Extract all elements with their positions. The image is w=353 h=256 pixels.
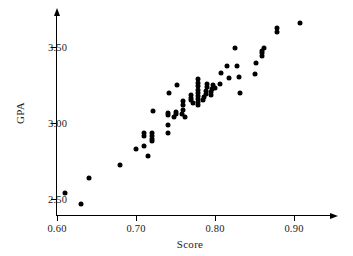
- data-point: [165, 130, 170, 135]
- data-point: [141, 144, 146, 149]
- data-point: [149, 130, 154, 135]
- plot-area: 3.50 3.00 2.50 0.60 0.70 0.80 0.90 Score…: [0, 0, 353, 256]
- data-point: [182, 115, 187, 120]
- data-point: [151, 108, 156, 113]
- data-point: [236, 75, 241, 80]
- data-point: [213, 85, 218, 90]
- data-point: [205, 81, 210, 86]
- data-point: [165, 123, 170, 128]
- data-point: [238, 91, 243, 96]
- data-point: [181, 99, 186, 104]
- data-point: [224, 64, 229, 69]
- data-point: [274, 30, 279, 35]
- data-point: [165, 110, 170, 115]
- data-point: [219, 70, 224, 75]
- data-points-layer: [0, 0, 353, 256]
- data-point: [189, 92, 194, 97]
- data-point: [232, 46, 237, 51]
- data-point: [173, 110, 178, 115]
- data-point: [261, 46, 266, 51]
- data-point: [235, 64, 240, 69]
- data-point: [175, 82, 180, 87]
- data-point: [145, 154, 150, 159]
- data-point: [217, 81, 222, 86]
- data-point: [118, 162, 123, 167]
- data-point: [78, 201, 83, 206]
- scatter-plot-figure: 3.50 3.00 2.50 0.60 0.70 0.80 0.90 Score…: [0, 0, 353, 256]
- data-point: [195, 77, 200, 82]
- data-point: [252, 72, 257, 77]
- data-point: [274, 25, 279, 30]
- data-point: [298, 20, 303, 25]
- data-point: [62, 190, 67, 195]
- data-point: [141, 131, 146, 136]
- data-point: [134, 147, 139, 152]
- data-point: [167, 91, 172, 96]
- data-point: [254, 61, 259, 66]
- data-point: [181, 107, 186, 112]
- data-point: [227, 75, 232, 80]
- data-point: [86, 175, 91, 180]
